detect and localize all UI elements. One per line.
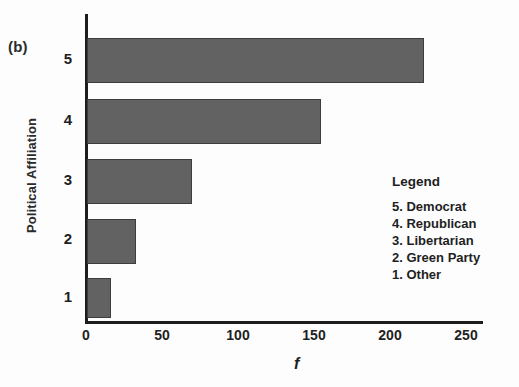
bar-libertarian <box>87 159 192 204</box>
bar-other <box>87 278 111 318</box>
x-axis-title: f <box>294 355 299 373</box>
bar-republican <box>87 99 321 144</box>
x-tick-label-100: 100 <box>226 327 249 343</box>
legend-item-libertarian: 3. Libertarian <box>392 232 512 249</box>
x-tick-label-200: 200 <box>378 327 401 343</box>
x-tick-label-150: 150 <box>302 327 325 343</box>
y-tick-label-3: 3 <box>56 171 80 188</box>
bar-green-party <box>87 219 136 264</box>
legend-item-green-party: 2. Green Party <box>392 249 512 266</box>
y-tick-label-4: 4 <box>56 111 80 128</box>
legend-item-democrat: 5. Democrat <box>392 198 512 215</box>
y-tick-label-5: 5 <box>56 50 80 67</box>
legend-item-other: 1. Other <box>392 266 512 283</box>
panel-label: (b) <box>8 38 28 55</box>
legend-item-republican: 4. Republican <box>392 215 512 232</box>
x-tick-label-0: 0 <box>82 327 90 343</box>
y-tick-label-1: 1 <box>56 288 80 305</box>
y-tick-label-2: 2 <box>56 230 80 247</box>
figure-panel-b: (b) Political Affiliation 5 4 3 2 1 0 50… <box>0 0 519 387</box>
x-tick-label-50: 50 <box>154 327 170 343</box>
y-axis-tick-labels: 5 4 3 2 1 <box>52 14 80 324</box>
x-axis-tick-labels: 0 50 100 150 200 250 <box>85 327 509 349</box>
y-axis-title: Political Affiliation <box>24 81 39 271</box>
legend-title: Legend <box>392 174 512 189</box>
x-axis-line <box>85 321 483 324</box>
legend: Legend 5. Democrat 4. Republican 3. Libe… <box>392 174 512 283</box>
x-tick-label-250: 250 <box>454 327 477 343</box>
bar-democrat <box>87 38 424 83</box>
